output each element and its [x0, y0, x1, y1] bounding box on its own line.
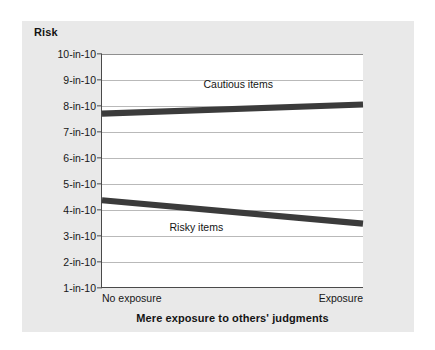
x-tick-label-exposure: Exposure [319, 292, 363, 304]
y-tick-label: 3-in-10 [63, 230, 96, 242]
y-tick-label: 5-in-10 [63, 178, 96, 190]
series-label: Cautious items [204, 78, 273, 90]
plot-area: 1-in-102-in-103-in-104-in-105-in-106-in-… [101, 54, 363, 288]
y-tick-label: 2-in-10 [63, 256, 96, 268]
y-tick-label: 7-in-10 [63, 126, 96, 138]
y-tick-label: 10-in-10 [57, 48, 96, 60]
y-tick-mark [97, 287, 102, 288]
y-tick-label: 9-in-10 [63, 74, 96, 86]
x-tick-label-no-exposure: No exposure [102, 292, 162, 304]
figure-root: Risk 1-in-102-in-103-in-104-in-105-in-10… [0, 0, 435, 350]
y-tick-label: 1-in-10 [63, 282, 96, 294]
y-tick-label: 6-in-10 [63, 152, 96, 164]
series-line [102, 104, 363, 113]
y-tick-label: 4-in-10 [63, 204, 96, 216]
y-tick-label: 8-in-10 [63, 100, 96, 112]
y-axis-title: Risk [34, 26, 58, 38]
series-line [102, 200, 363, 223]
chart-card: Risk 1-in-102-in-103-in-104-in-105-in-10… [22, 21, 414, 332]
x-axis-title: Mere exposure to others' judgments [102, 312, 363, 324]
series-label: Risky items [169, 221, 223, 233]
